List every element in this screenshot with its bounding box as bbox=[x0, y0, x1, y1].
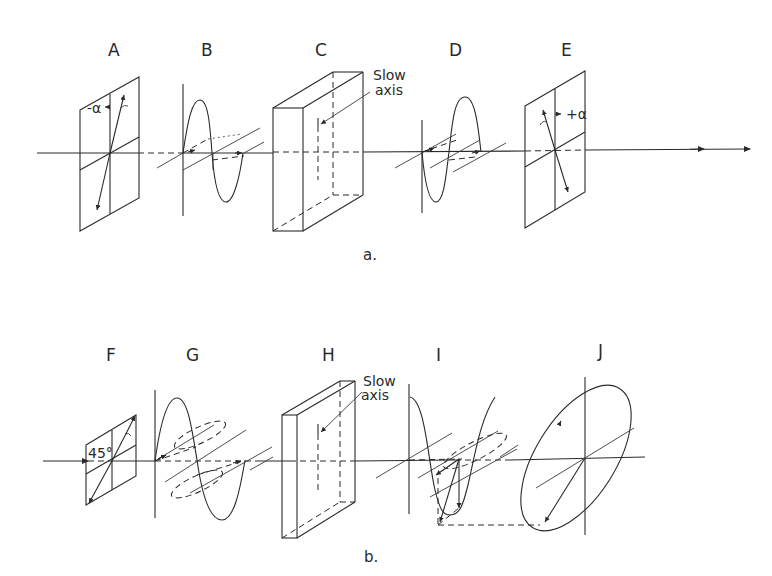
polarizer-a: -α bbox=[80, 77, 139, 231]
label-c: C bbox=[315, 40, 327, 60]
label-a: A bbox=[108, 40, 120, 60]
wave-g bbox=[155, 390, 272, 520]
analyzer-e: +α bbox=[525, 71, 587, 228]
polarizer-f: 45° bbox=[86, 415, 136, 505]
label-j: J bbox=[597, 341, 603, 361]
angle-plus-alpha: +α bbox=[566, 106, 587, 122]
polarization-diagram: A -α F B C bbox=[0, 0, 772, 576]
label-i: I bbox=[436, 345, 441, 365]
slow-axis-label-2: axis bbox=[375, 82, 403, 98]
label-g: G bbox=[186, 345, 199, 365]
wave-b bbox=[157, 84, 264, 216]
waveplate-h: Slow axis bbox=[250, 373, 396, 538]
polarization-arrow-icon bbox=[110, 95, 124, 153]
slow-axis-label-b-2: axis bbox=[361, 387, 389, 403]
label-f: F bbox=[106, 345, 116, 365]
label-h: H bbox=[322, 345, 335, 365]
caption-b: b. bbox=[364, 548, 378, 566]
label-e: E bbox=[561, 40, 572, 60]
angle-minus-alpha: -α bbox=[87, 100, 101, 116]
panel-a: A -α F B C bbox=[37, 40, 750, 264]
wave-d bbox=[395, 97, 506, 213]
panel-b: F 45° G H bbox=[43, 341, 653, 566]
wave-i bbox=[376, 384, 540, 525]
angle-45: 45° bbox=[88, 445, 113, 461]
slow-axis-label: Slow bbox=[373, 67, 406, 83]
label-b: B bbox=[201, 40, 213, 60]
waveplate-c: Slow axis bbox=[273, 67, 406, 231]
label-d: D bbox=[449, 40, 462, 60]
caption-a: a. bbox=[363, 246, 377, 264]
direction-arrow-icon bbox=[585, 149, 750, 150]
